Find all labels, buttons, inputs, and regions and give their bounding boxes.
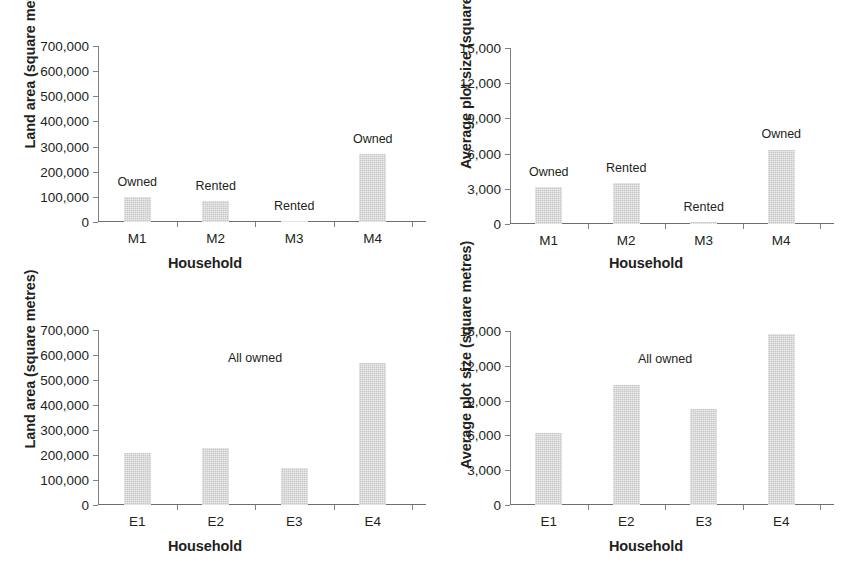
- bar-annotation-m3: Rented: [684, 200, 724, 214]
- x-axis-tick: [820, 505, 821, 510]
- bar-annotation-m2: Rented: [196, 179, 236, 193]
- y-axis-tick-label: 300,000: [40, 423, 89, 438]
- y-axis-tick-label: 600,000: [40, 64, 89, 79]
- bar-e1: [535, 433, 562, 506]
- x-axis-tick: [588, 505, 589, 510]
- bar-e2: [202, 448, 229, 505]
- x-axis-tick: [334, 505, 335, 510]
- bar-m3: [690, 222, 717, 224]
- y-axis-tick-label: 9,000: [467, 393, 501, 408]
- bar-m3: [281, 221, 308, 222]
- y-axis-line: [510, 331, 511, 505]
- plot-area-bottom-right: 03,0006,0009,00012,00015,000E1E2E3E4All …: [510, 331, 820, 505]
- bar-e3: [281, 468, 308, 505]
- y-axis-tick: [505, 189, 510, 190]
- y-axis-tick: [93, 71, 98, 72]
- y-axis-line: [510, 48, 511, 224]
- bar-e4: [768, 334, 795, 505]
- y-axis-tick: [505, 48, 510, 49]
- x-axis-tick-label: M1: [128, 231, 147, 246]
- x-axis-title: Household: [90, 255, 320, 271]
- y-axis-tick: [93, 172, 98, 173]
- y-axis-tick: [93, 355, 98, 356]
- x-axis-tick-label: E2: [618, 514, 635, 529]
- bar-m4: [359, 154, 386, 222]
- y-axis-tick-label: 600,000: [40, 348, 89, 363]
- x-axis-tick-label: E4: [773, 514, 790, 529]
- plot-area-top-left: 0100,000200,000300,000400,000500,000600,…: [98, 46, 412, 222]
- y-axis-tick: [93, 480, 98, 481]
- x-axis-tick-label: E3: [286, 514, 303, 529]
- y-axis-tick-label: 0: [81, 215, 89, 230]
- bar-e4: [359, 363, 386, 505]
- y-axis-tick: [93, 121, 98, 122]
- bar-annotation-m1: Owned: [117, 175, 157, 189]
- y-axis-tick-label: 400,000: [40, 114, 89, 129]
- panel-annotation: All owned: [638, 352, 692, 366]
- bar-annotation-m2: Rented: [606, 161, 646, 175]
- y-axis-tick-label: 0: [81, 498, 89, 513]
- x-axis-tick-label: E1: [129, 514, 146, 529]
- panel-bottom-right: Average plot size (square metres) 03,000…: [426, 283, 852, 566]
- y-axis-tick-label: 300,000: [40, 139, 89, 154]
- x-axis-title: Household: [531, 538, 761, 554]
- y-axis-tick-label: 400,000: [40, 398, 89, 413]
- bar-annotation-m3: Rented: [274, 199, 314, 213]
- y-axis-tick-label: 3,000: [467, 463, 501, 478]
- y-axis-tick: [505, 401, 510, 402]
- y-axis-tick-label: 6,000: [467, 428, 501, 443]
- x-axis-tick: [412, 505, 413, 510]
- y-axis-tick: [93, 197, 98, 198]
- y-axis-tick: [93, 46, 98, 47]
- x-axis-tick: [665, 505, 666, 510]
- y-axis-tick: [93, 405, 98, 406]
- y-axis-tick: [505, 505, 510, 506]
- y-axis-tick: [505, 154, 510, 155]
- x-axis-tick: [665, 224, 666, 229]
- panel-top-right: Average plot size (square metres) 03,000…: [426, 0, 852, 283]
- x-axis-tick: [177, 222, 178, 227]
- x-axis-tick-label: M1: [539, 233, 558, 248]
- y-axis-tick-label: 3,000: [467, 181, 501, 196]
- y-axis-tick: [505, 83, 510, 84]
- y-axis-tick: [93, 330, 98, 331]
- y-axis-title: Land area (square metres): [19, 254, 41, 464]
- y-axis-tick: [505, 224, 510, 225]
- bar-m2: [202, 201, 229, 222]
- plot-area-bottom-left: 0100,000200,000300,000400,000500,000600,…: [98, 330, 412, 505]
- y-axis-tick: [505, 366, 510, 367]
- bar-m4: [768, 150, 795, 225]
- bar-m1: [535, 187, 562, 224]
- x-axis-tick: [334, 222, 335, 227]
- y-axis-tick: [93, 222, 98, 223]
- x-axis-tick-label: M2: [206, 231, 225, 246]
- y-axis-tick-label: 200,000: [40, 448, 89, 463]
- y-axis-line: [98, 330, 99, 505]
- panel-annotation: All owned: [228, 351, 282, 365]
- panel-bottom-left: Land area (square metres) 0100,000200,00…: [0, 283, 426, 566]
- x-axis-tick: [588, 224, 589, 229]
- x-axis-tick-label: E2: [207, 514, 224, 529]
- x-axis-tick: [743, 224, 744, 229]
- bar-annotation-m4: Owned: [761, 127, 801, 141]
- y-axis-tick-label: 200,000: [40, 164, 89, 179]
- four-panel-bar-chart-figure: Land area (square metres) 0100,000200,00…: [0, 0, 852, 566]
- y-axis-tick: [93, 380, 98, 381]
- y-axis-tick-label: 6,000: [467, 146, 501, 161]
- y-axis-tick: [93, 505, 98, 506]
- y-axis-tick-label: 0: [493, 498, 501, 513]
- y-axis-title: Land area (square metres): [19, 0, 41, 164]
- x-axis-tick-label: E4: [364, 514, 381, 529]
- plot-area-top-right: 03,0006,0009,00012,00015,000M1OwnedM2Ren…: [510, 48, 820, 224]
- x-axis-tick-label: M3: [694, 233, 713, 248]
- bar-e2: [613, 385, 640, 505]
- x-axis-tick-label: M4: [363, 231, 382, 246]
- x-axis-tick-label: M4: [772, 233, 791, 248]
- y-axis-tick-label: 12,000: [460, 76, 501, 91]
- x-axis-tick: [743, 505, 744, 510]
- y-axis-tick-label: 100,000: [40, 189, 89, 204]
- bar-annotation-m1: Owned: [529, 165, 569, 179]
- x-axis-tick: [412, 222, 413, 227]
- bar-e1: [124, 453, 151, 506]
- y-axis-tick-label: 700,000: [40, 39, 89, 54]
